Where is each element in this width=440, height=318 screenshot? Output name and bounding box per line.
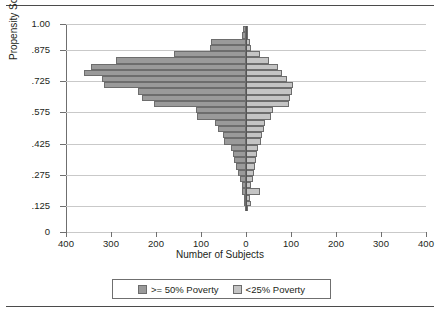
x-axis-tick-label: 300 bbox=[361, 238, 401, 249]
x-axis-tick bbox=[426, 232, 427, 237]
x-axis-tick bbox=[336, 232, 337, 237]
x-axis-tick bbox=[291, 232, 292, 237]
y-axis-tick bbox=[60, 81, 66, 82]
chart-legend: >= 50% Poverty <25% Poverty bbox=[112, 279, 331, 299]
x-axis-title: Number of Subjects bbox=[0, 249, 440, 260]
x-axis-tick bbox=[156, 232, 157, 237]
x-axis-tick-label: 200 bbox=[316, 238, 356, 249]
legend-item-high-poverty: >= 50% Poverty bbox=[138, 284, 219, 295]
y-axis-tick-label: .575 bbox=[32, 107, 51, 117]
y-axis-tick bbox=[60, 175, 66, 176]
legend-item-low-poverty: <25% Poverty bbox=[233, 284, 305, 295]
x-axis-tick-label: 400 bbox=[406, 238, 440, 249]
x-axis-tick bbox=[66, 232, 67, 237]
x-axis-tick-label: 0 bbox=[226, 238, 266, 249]
x-axis-tick bbox=[111, 232, 112, 237]
legend-swatch-icon bbox=[138, 285, 147, 294]
figure-bottom-rule bbox=[6, 306, 434, 307]
y-axis-tick bbox=[60, 112, 66, 113]
x-axis-tick-label: 100 bbox=[181, 238, 221, 249]
x-axis-tick-label: 300 bbox=[91, 238, 131, 249]
y-axis-tick-label: 1.00 bbox=[32, 19, 51, 29]
x-axis-tick-label: 200 bbox=[136, 238, 176, 249]
plot-area: 1.00.875.725.575.425.275.125040030020010… bbox=[66, 24, 426, 232]
y-axis-tick-label: .125 bbox=[32, 201, 51, 211]
x-axis-tick bbox=[201, 232, 202, 237]
figure-top-rule bbox=[6, 5, 434, 6]
y-axis-tick bbox=[60, 206, 66, 207]
legend-label: <25% Poverty bbox=[246, 284, 305, 295]
legend-label: >= 50% Poverty bbox=[151, 284, 219, 295]
y-axis-tick bbox=[60, 24, 66, 25]
y-axis-tick-label: .725 bbox=[32, 76, 51, 86]
x-axis-tick-label: 100 bbox=[271, 238, 311, 249]
legend-swatch-icon bbox=[233, 285, 242, 294]
x-axis-tick bbox=[246, 232, 247, 237]
y-axis-tick bbox=[60, 50, 66, 51]
x-axis-tick-label: 400 bbox=[46, 238, 86, 249]
zero-axis-line bbox=[246, 26, 247, 211]
grid-line bbox=[66, 24, 426, 25]
y-axis-title: Propensity Score bbox=[8, 46, 19, 60]
y-axis-tick-label: .875 bbox=[32, 45, 51, 55]
y-axis-tick-label: .425 bbox=[32, 139, 51, 149]
y-axis-tick bbox=[60, 144, 66, 145]
y-axis-tick-label: .275 bbox=[32, 170, 51, 180]
y-axis-tick-label: 0 bbox=[45, 227, 50, 237]
figure-container: Propensity Score 1.00.875.725.575.425.27… bbox=[0, 0, 440, 318]
x-axis-tick bbox=[381, 232, 382, 237]
